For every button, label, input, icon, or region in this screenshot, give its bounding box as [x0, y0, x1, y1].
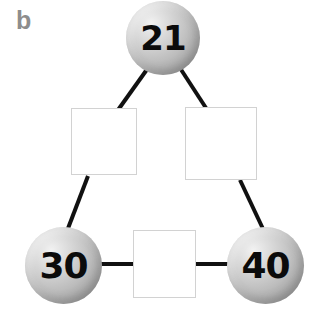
edge-top-to-left-slot — [118, 68, 148, 110]
node-bottom-left-label: 30 — [39, 248, 87, 284]
answer-slot-bottom[interactable] — [133, 230, 196, 298]
node-top-label: 21 — [140, 21, 185, 55]
node-bottom-left[interactable]: 30 — [25, 227, 102, 304]
answer-slot-right[interactable] — [185, 107, 257, 180]
node-bottom-right[interactable]: 40 — [227, 227, 304, 304]
node-top[interactable]: 21 — [126, 1, 200, 75]
node-bottom-right-label: 40 — [241, 248, 289, 284]
figure-panel-b: b 21 30 40 — [0, 0, 328, 323]
edge-left-slot-to-bottom-left — [67, 176, 88, 231]
panel-label: b — [16, 8, 31, 33]
answer-slot-left[interactable] — [71, 108, 137, 175]
edge-right-slot-to-bottom-right — [240, 180, 264, 231]
edge-top-to-right-slot — [180, 68, 206, 108]
